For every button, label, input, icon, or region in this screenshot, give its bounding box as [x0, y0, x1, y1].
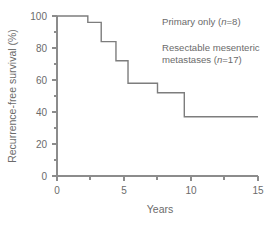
y-axis-title: Recurrence-free survival (%) — [6, 29, 18, 163]
y-tick-label-40: 40 — [36, 107, 48, 118]
legend-primary-text-before: Primary only ( — [162, 16, 221, 27]
legend-primary-text-after: =8) — [227, 16, 241, 27]
legend-label-resectable-mesenteric: Resectable mesenteric metastases (n=17) — [162, 42, 278, 67]
y-tick-label-60: 60 — [36, 75, 48, 86]
x-tick-label-0: 0 — [54, 185, 60, 196]
x-tick-label-5: 5 — [121, 185, 127, 196]
y-tick-label-20: 20 — [36, 139, 48, 150]
legend-resectable-text-before: Resectable mesenteric metastases ( — [162, 42, 260, 65]
x-tick-label-15: 15 — [252, 185, 264, 196]
legend-label-primary-only: Primary only (n=8) — [162, 16, 241, 28]
y-tick-label-0: 0 — [41, 171, 47, 182]
y-tick-label-100: 100 — [30, 11, 47, 22]
x-axis-title: Years — [147, 203, 173, 215]
km-survival-figure: 0 20 40 60 80 100 0 5 10 15 Years Recurr… — [0, 0, 280, 225]
chart-canvas: 0 20 40 60 80 100 0 5 10 15 Years Recurr… — [0, 0, 280, 225]
x-tick-label-10: 10 — [185, 185, 197, 196]
legend-resectable-text-after: =17) — [222, 54, 241, 65]
y-tick-label-80: 80 — [36, 43, 48, 54]
